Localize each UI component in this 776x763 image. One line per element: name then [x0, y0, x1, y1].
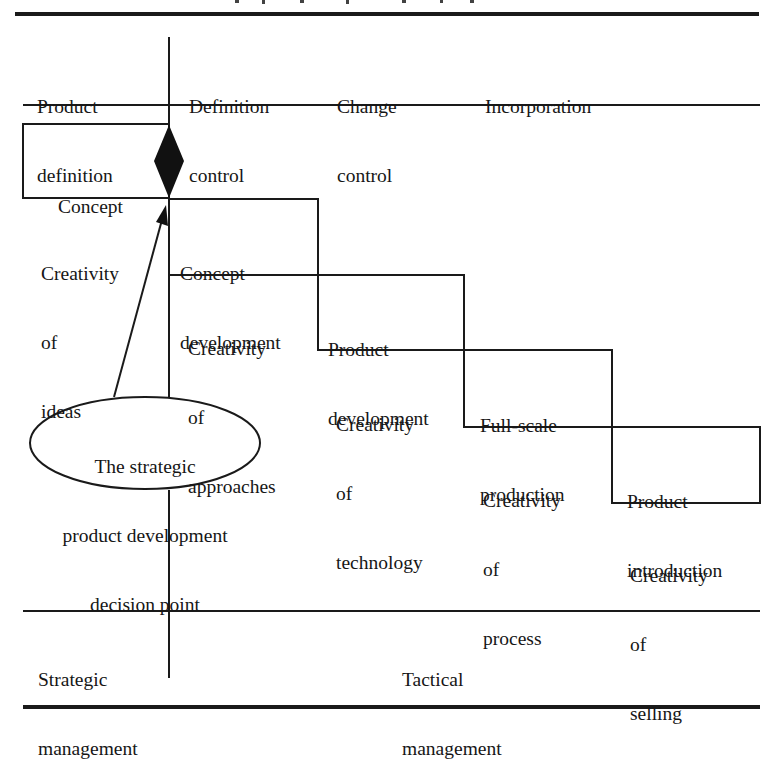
footer-line: management: [38, 737, 138, 760]
creativity-line: selling: [630, 702, 708, 725]
creativity-line: of: [630, 633, 708, 656]
creativity-selling: Creativity of selling: [630, 518, 708, 763]
header-incorporation: Incorporation: [485, 49, 591, 164]
creativity-line: technology: [336, 551, 423, 574]
creativity-line: of: [336, 482, 423, 505]
creativity-line: Creativity: [336, 413, 423, 436]
creativity-line: Creativity: [41, 262, 119, 285]
footer-tactical-management: Tactical management: [402, 622, 502, 763]
arrowhead-icon: [156, 205, 168, 226]
header-line: Definition: [189, 95, 269, 118]
footer-line: Tactical: [402, 668, 502, 691]
decision-point-line: product development: [30, 524, 260, 547]
header-line: Change: [337, 95, 397, 118]
header-line: Product: [37, 95, 113, 118]
header-line: Incorporation: [485, 95, 591, 118]
decision-point-line: The strategic: [30, 455, 260, 478]
decision-point-line: decision point: [30, 593, 260, 616]
cropped-title-remnant: [235, 0, 474, 4]
stage-line: Full-scale: [480, 414, 564, 437]
header-definition-control: Definition control: [189, 49, 269, 233]
footer-line: management: [402, 737, 502, 760]
stage-line: Product: [627, 490, 722, 513]
header-line: control: [337, 164, 397, 187]
header-change-control: Change control: [337, 49, 397, 233]
stage-line: Concept: [180, 262, 281, 285]
header-line: control: [189, 164, 269, 187]
stage-line: Concept: [58, 195, 123, 218]
creativity-line: of: [483, 558, 561, 581]
creativity-line: Creativity: [483, 489, 561, 512]
footer-strategic-management: Strategic management: [38, 622, 138, 763]
stage-line: Product: [328, 338, 429, 361]
creativity-line: Creativity: [630, 564, 708, 587]
decision-diamond-icon: [154, 125, 184, 198]
footer-line: Strategic: [38, 668, 138, 691]
creativity-technology: Creativity of technology: [336, 367, 423, 620]
creativity-line: of: [41, 331, 119, 354]
creativity-line: Creativity: [188, 337, 276, 360]
